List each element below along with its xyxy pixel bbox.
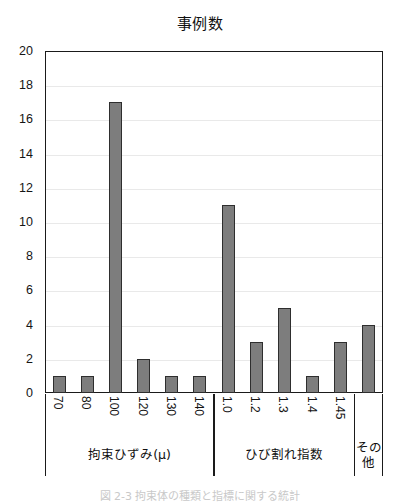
y-tick-label: 18 (19, 79, 33, 92)
group-label-cell: その他 (355, 394, 383, 476)
y-tick-label: 16 (19, 113, 33, 126)
gridline (46, 120, 382, 121)
y-tick-label: 0 (26, 387, 33, 400)
y-tick-label: 2 (26, 353, 33, 366)
group-label: ひび割れ指数 (245, 448, 323, 476)
figure-caption: 図 2-3 拘束体の種類と指標に関する統計 (0, 487, 400, 503)
group-separator (382, 394, 383, 476)
y-tick-label: 8 (26, 250, 33, 263)
group-label: その他 (356, 441, 382, 476)
gridline (46, 257, 382, 258)
gridline (46, 86, 382, 87)
y-tick-label: 20 (19, 45, 33, 58)
y-tick-label: 14 (19, 147, 33, 160)
chart-title: 事例数 (0, 12, 400, 33)
group-separator (45, 394, 46, 476)
gridline (46, 223, 382, 224)
gridline (46, 189, 382, 190)
group-label: 拘束ひずみ(μ) (88, 448, 171, 476)
y-tick-label: 6 (26, 284, 33, 297)
group-label-cell: ひび割れ指数 (214, 394, 355, 476)
x-group-labels: 拘束ひずみ(μ)ひび割れ指数その他 (45, 394, 383, 476)
plot-area (45, 51, 383, 393)
gridline (46, 326, 382, 327)
gridline (46, 155, 382, 156)
group-separator (213, 394, 214, 476)
y-tick-label: 12 (19, 182, 33, 195)
y-axis: 02468101214161820 (0, 51, 40, 393)
group-separator (354, 394, 355, 476)
gridlines (46, 52, 382, 392)
gridline (46, 291, 382, 292)
y-tick-label: 10 (19, 216, 33, 229)
gridline (46, 360, 382, 361)
group-label-cell: 拘束ひずみ(μ) (45, 394, 214, 476)
y-tick-label: 4 (26, 318, 33, 331)
